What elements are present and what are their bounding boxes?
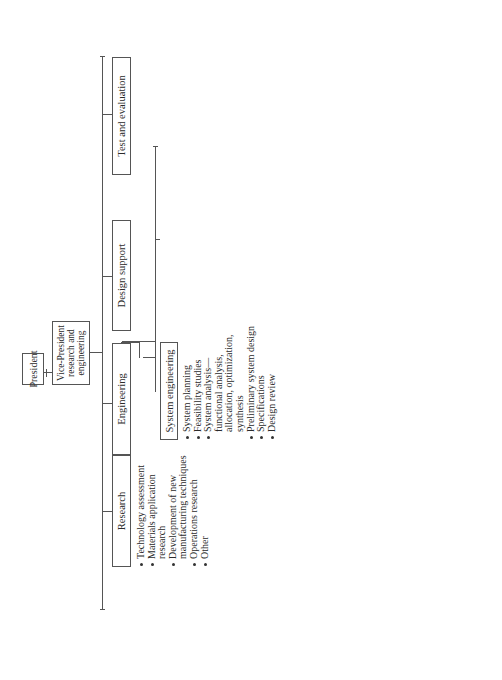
connector (102, 276, 112, 277)
bus-end (100, 56, 105, 57)
group-label: System engineering (164, 349, 175, 432)
list-item: Technology assessment (136, 452, 147, 567)
connector (155, 239, 160, 240)
list-item: Development of new manufacturing techniq… (168, 452, 189, 567)
engineering-sub-bus (155, 147, 156, 392)
president-box: President (22, 353, 44, 385)
dept-design-support-box: Design support (112, 220, 131, 331)
dept-test-evaluation-box: Test and evaluation (112, 57, 131, 175)
connector (121, 342, 139, 343)
connector (90, 352, 102, 353)
group-system-engineering-box: System engineering (160, 342, 178, 440)
bus-end (100, 609, 105, 610)
dept-engineering-box: Engineering (112, 343, 131, 455)
list-item: Design review (267, 318, 278, 440)
connector (102, 403, 112, 404)
bus-end (153, 146, 158, 147)
dept-test-evaluation-label: Test and evaluation (116, 75, 127, 157)
dept-research-box: Research (112, 455, 131, 567)
list-item: Materials application research (147, 452, 168, 567)
main-bus (102, 57, 103, 610)
dept-design-support-label: Design support (116, 244, 127, 308)
connector (46, 369, 47, 377)
list-item: Operations research (189, 452, 200, 567)
org-chart: President Vice-President research and en… (0, 0, 502, 680)
connector (102, 511, 112, 512)
connector (139, 342, 140, 358)
research-list: Technology assessment Materials applicat… (136, 452, 210, 567)
system-engineering-list: System planning Feasibility studies Syst… (182, 318, 277, 440)
vp-box: Vice-President research and engineering (52, 321, 90, 385)
vp-label: Vice-President research and engineering (56, 324, 86, 382)
connector (143, 357, 155, 358)
list-item: System planning (182, 318, 193, 440)
connector (122, 341, 155, 342)
dept-research-label: Research (116, 492, 127, 530)
list-item: Other (200, 452, 211, 567)
president-label: President (28, 350, 39, 387)
list-item: System analysis— functional analysis, al… (203, 318, 245, 440)
connector (102, 114, 112, 115)
dept-engineering-label: Engineering (116, 373, 127, 424)
